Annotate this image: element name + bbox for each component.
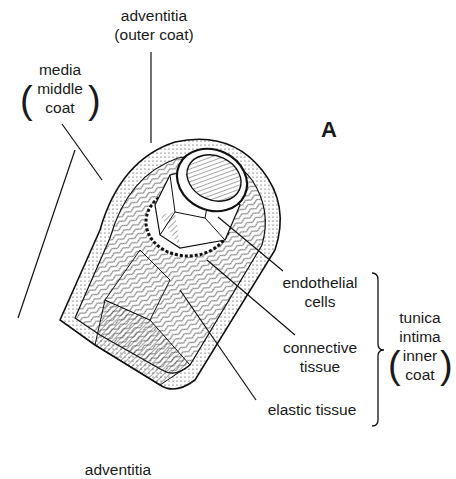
label-media-line1: media: [22, 60, 98, 79]
label-media-line3: coat: [22, 98, 98, 117]
tunica-intima-brace: [372, 273, 384, 426]
label-media: media middle coat: [22, 60, 98, 117]
vessel-wall: [60, 138, 280, 389]
label-endothelial-cells: endothelial cells: [270, 273, 370, 311]
media-paren-close: ): [88, 80, 101, 120]
label-tunica-line1: tunica: [390, 308, 450, 327]
panel-letter: A: [321, 117, 337, 143]
label-endothelial-line1: endothelial: [270, 273, 370, 292]
label-connective-tissue: connective tissue: [272, 338, 368, 376]
label-elastic-line1: elastic tissue: [254, 400, 370, 419]
leader-left: [18, 150, 75, 318]
label-connective-line2: tissue: [272, 357, 368, 376]
label-adventitia-line2: (outer coat): [106, 25, 202, 44]
label-bottom-line1: adventitia: [78, 460, 158, 479]
label-elastic-tissue: elastic tissue: [254, 400, 370, 419]
label-adventitia-line1: adventitia: [106, 6, 202, 25]
media-paren-open: (: [20, 80, 33, 120]
label-adventitia: adventitia (outer coat): [106, 6, 202, 44]
label-connective-line1: connective: [272, 338, 368, 357]
label-media-line2: middle: [22, 79, 98, 98]
label-adventitia-bottom-clipped: adventitia: [78, 460, 158, 479]
label-endothelial-line2: cells: [270, 292, 370, 311]
intima-paren-close: ): [440, 345, 453, 385]
intima-paren-open: (: [388, 345, 401, 385]
